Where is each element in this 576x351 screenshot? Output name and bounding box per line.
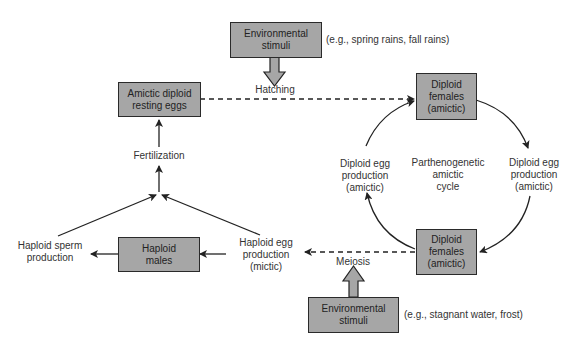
big-arrow-up-icon: [343, 266, 364, 297]
box-amictic-resting-eggs: Amictic diploid resting eggs: [118, 82, 201, 117]
label-meiosis: Meiosis: [330, 256, 376, 268]
box-diploid-females-bottom: Diploid females (amictic): [416, 229, 477, 275]
label-haploid-sperm: Haploid sperm production: [14, 240, 86, 264]
label-env-bottom-examples: (e.g., stagnant water, frost): [404, 309, 523, 321]
box-environmental-stimuli-bottom: Environmental stimuli: [308, 297, 399, 333]
box-diploid-females-top: Diploid females (amictic): [416, 73, 477, 120]
cycle-arc-bottom-left: [367, 193, 415, 249]
egg-to-fertilization-line: [162, 195, 260, 235]
big-arrow-down-icon: [264, 57, 285, 86]
sperm-to-fertilization-line: [58, 195, 156, 236]
box-haploid-males: Haploid males: [118, 237, 200, 272]
label-diploid-egg-right: Diploid egg production (amictic): [500, 157, 568, 193]
label-diploid-egg-left: Diploid egg production (amictic): [330, 158, 400, 194]
label-haploid-egg: Haploid egg production (mictic): [228, 237, 304, 273]
label-fertilization: Fertilization: [124, 150, 194, 162]
label-cycle-center: Parthenogenetic amictic cycle: [410, 157, 486, 193]
box-environmental-stimuli-top: Environmental stimuli: [230, 22, 322, 58]
label-hatching: Hatching: [250, 84, 300, 96]
cycle-arc-top-right: [476, 100, 528, 148]
cycle-arc-bottom-right: [480, 196, 530, 252]
label-env-top-examples: (e.g., spring rains, fall rains): [326, 34, 449, 46]
cycle-arc-top-left: [366, 101, 414, 146]
